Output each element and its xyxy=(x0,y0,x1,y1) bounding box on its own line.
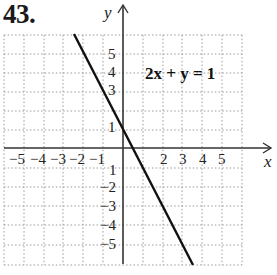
x-tick-label: −1 xyxy=(89,152,105,167)
x-axis-label: x xyxy=(264,153,272,170)
x-tick-label: −4 xyxy=(30,152,46,167)
y-tick-label: −4 xyxy=(100,218,116,233)
x-tick-label: −2 xyxy=(69,152,85,167)
graph-canvas xyxy=(0,0,277,275)
x-tick-label: 5 xyxy=(218,152,226,167)
equation-label: 2x + y = 1 xyxy=(145,64,215,84)
x-tick-label: −3 xyxy=(50,152,66,167)
y-tick-label: 1 xyxy=(108,120,116,135)
y-tick-label: 5 xyxy=(108,47,116,62)
y-tick-label: 4 xyxy=(108,65,116,80)
y-tick-label: −3 xyxy=(100,199,116,214)
x-tick-label: 3 xyxy=(179,152,187,167)
x-tick-label: −5 xyxy=(9,152,25,167)
equation-text: 2x + y = 1 xyxy=(145,64,215,83)
x-tick-label: 4 xyxy=(199,152,207,167)
x-tick-label: 2 xyxy=(160,152,168,167)
y-tick-label: 1 xyxy=(109,163,117,178)
y-axis-label: y xyxy=(104,4,112,21)
y-tick-label: −2 xyxy=(100,180,116,195)
y-tick-label: −5 xyxy=(100,237,116,252)
y-tick-label: 3 xyxy=(108,83,116,98)
